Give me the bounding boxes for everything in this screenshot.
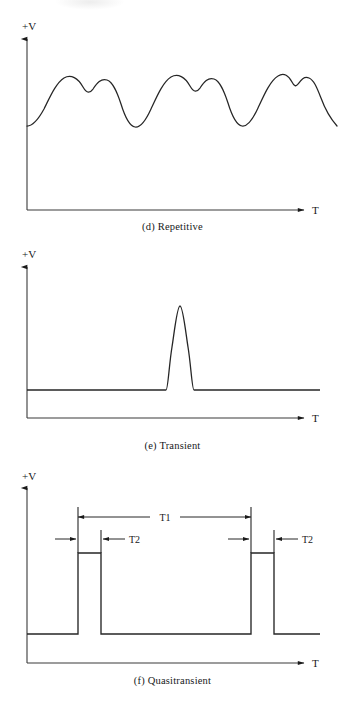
figure-d-caption: (d) Repetitive	[0, 221, 345, 232]
figure-d-x-axis-label: T	[312, 204, 319, 216]
figure-e-y-axis-label: +V	[22, 248, 36, 260]
figure-f-caption: (f) Quasitransient	[0, 675, 345, 686]
figure-f-dimension-t2-left-label: T2	[129, 534, 140, 545]
figure-d-waveform-trace	[27, 74, 337, 127]
figure-e-transient: +V T (e) Transient	[0, 245, 345, 445]
figure-f-svg: +V T T1 T2 T2	[0, 472, 345, 677]
figure-d-svg: +V T	[0, 14, 345, 219]
figure-d-repetitive: +V T (d) Repetitive	[0, 14, 345, 214]
figure-page: +V T (d) Repetitive +V T (e) Tr	[0, 0, 345, 702]
figure-f-quasitransient: +V T T1 T2 T2 (f) Quasitransient	[0, 472, 345, 697]
figure-f-dimension-t1-label: T1	[159, 512, 170, 523]
figure-f-y-axis-label: +V	[22, 472, 36, 482]
figure-f-x-axis-label: T	[312, 657, 319, 669]
figure-f-waveform-trace	[27, 553, 320, 634]
figure-d-y-axis-label: +V	[22, 20, 36, 32]
figure-f-dimension-t2-right-label: T2	[302, 534, 313, 545]
figure-e-x-axis-label: T	[312, 412, 319, 424]
scan-artifact	[55, 0, 125, 10]
figure-e-waveform-trace	[27, 306, 320, 390]
figure-e-caption: (e) Transient	[0, 440, 345, 451]
figure-e-svg: +V T	[0, 245, 345, 435]
